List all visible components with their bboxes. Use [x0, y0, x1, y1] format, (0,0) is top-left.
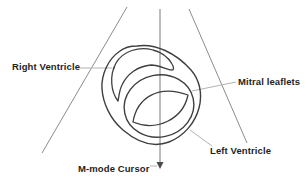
label-m-mode-cursor: M-mode Cursor [78, 163, 150, 174]
label-right-ventricle: Right Ventricle [12, 61, 80, 72]
echo-diagram: Right Ventricle Mitral leaflets Left Ven… [0, 0, 306, 182]
label-left-ventricle: Left Ventricle [210, 145, 271, 156]
label-mitral-leaflets: Mitral leaflets [238, 76, 300, 87]
m-mode-cursor-arrowhead-icon [157, 162, 164, 169]
beam-line-left [42, 7, 127, 153]
left-ventricle-contour [118, 68, 199, 143]
leader-left-ventricle [190, 130, 212, 146]
